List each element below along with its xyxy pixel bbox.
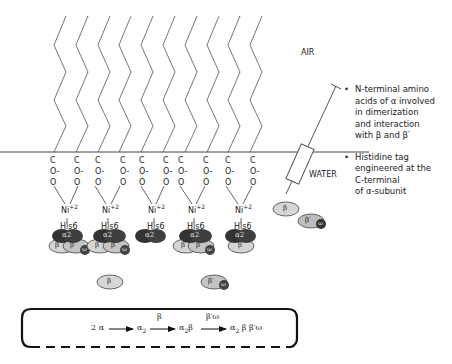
omega-label-4: ω <box>207 245 212 252</box>
headgroup-3: C O- O <box>95 155 104 188</box>
beta-prime-label-1: β′ <box>70 241 76 249</box>
headgroup-8: C O- O <box>203 155 212 188</box>
carbon-label: C <box>139 155 148 166</box>
o-minus-label: O- <box>203 166 212 177</box>
carbon-label: C <box>178 155 187 166</box>
beta-prime-label-2: β′ <box>111 241 117 249</box>
lipid-chain-4 <box>119 16 131 152</box>
lipid-chain-6 <box>163 16 175 152</box>
note-line: and interaction <box>355 119 452 131</box>
oxygen-label: O <box>250 177 259 188</box>
free-beta-prime-label-2: β′ <box>305 216 311 224</box>
note-line: acids of α involved <box>355 96 452 108</box>
bullet: • <box>344 84 349 96</box>
lipid-chain-5 <box>141 16 153 152</box>
oxygen-label: O <box>120 177 129 188</box>
o-minus-label: O- <box>139 166 148 177</box>
ni-label-2: Ni+2 <box>102 203 119 215</box>
oxygen-label: O <box>95 177 104 188</box>
carbon-label: C <box>95 155 104 166</box>
oxygen-label: O <box>163 177 172 188</box>
his6-label-4: His6 <box>187 222 205 231</box>
o-minus-label: O- <box>95 166 104 177</box>
free-beta-prime-label-1: β′ <box>208 277 214 285</box>
omega-label-2: ω <box>122 245 127 252</box>
water-label: WATER <box>309 170 337 179</box>
his6-label-1: His6 <box>60 222 78 231</box>
oxygen-label: O <box>74 177 83 188</box>
step-beta-prime-omega-label: β′ω <box>206 312 219 321</box>
air-label: AIR <box>301 48 314 57</box>
o-minus-label: O- <box>74 166 83 177</box>
beta-label-5: β <box>238 241 242 249</box>
headgroup-4: C O- O <box>120 155 129 188</box>
lipid-chain-1 <box>54 16 66 152</box>
carbon-label: C <box>74 155 83 166</box>
carbon-label: C <box>203 155 212 166</box>
oxygen-label: O <box>139 177 148 188</box>
o-minus-label: O- <box>163 166 172 177</box>
lipid-chain-7 <box>185 16 197 152</box>
headgroup-2: C O- O <box>74 155 83 188</box>
headgroup-10: C O- O <box>250 155 259 188</box>
step-beta-label: β <box>157 312 162 321</box>
his6-label-5: His6 <box>234 222 252 231</box>
lipid-chain-9 <box>228 16 240 152</box>
carbon-label: C <box>225 155 234 166</box>
headgroup-7: C O- O <box>178 155 187 188</box>
reactant-2-alpha: 2 α <box>91 323 104 332</box>
beta-label-1: β <box>55 241 59 249</box>
his6-label-2: His6 <box>101 222 119 231</box>
lipid-chains <box>54 16 262 152</box>
lipid-chain-8 <box>207 16 219 152</box>
beta-label-2: β <box>95 241 99 249</box>
carbon-label: C <box>120 155 129 166</box>
o-minus-label: O- <box>120 166 129 177</box>
lipid-chain-10 <box>250 16 262 152</box>
oxygen-label: O <box>50 177 59 188</box>
his6-label-3: His6 <box>147 222 165 231</box>
lipid-chain-2 <box>76 16 88 152</box>
beta-label-4: β <box>181 241 185 249</box>
headgroup-6: C O- O <box>163 155 172 188</box>
o-minus-label: O- <box>225 166 234 177</box>
note-line: Histidine tag <box>355 152 452 164</box>
ni-label-5: Ni+2 <box>235 203 252 215</box>
note-line: with β and β′ <box>355 130 452 142</box>
o-minus-label: O- <box>50 166 59 177</box>
ni-label-3: Ni+2 <box>148 203 165 215</box>
o-minus-label: O- <box>178 166 187 177</box>
alpha2-label-1: α2 <box>62 231 71 239</box>
free-omega-label-1: ω <box>221 280 226 287</box>
o-minus-label: O- <box>250 166 259 177</box>
headgroup-5: C O- O <box>139 155 148 188</box>
beta-prime-label-4: β′ <box>196 241 202 249</box>
free-omega-label-2: ω <box>318 219 323 226</box>
alpha2-label-5: α2 <box>235 231 244 239</box>
headgroup-1: C O- O <box>50 155 59 188</box>
note-histidine-tag: • Histidine tag engineered at the C-term… <box>344 152 452 198</box>
ni-label-4: Ni+2 <box>188 203 205 215</box>
note-n-terminal: • N-terminal amino acids of α involved i… <box>344 84 452 142</box>
final-product: α2 β β′ω <box>230 323 262 334</box>
carbon-label: C <box>250 155 259 166</box>
carbon-label: C <box>163 155 172 166</box>
oxygen-label: O <box>178 177 187 188</box>
note-line: C-terminal <box>355 175 452 187</box>
notes-panel: • N-terminal amino acids of α involved i… <box>344 84 452 205</box>
free-beta-label-2: β <box>283 204 287 212</box>
note-line: N-terminal amino <box>355 84 452 96</box>
product-alpha2: α2 <box>137 323 146 334</box>
bullet: • <box>344 152 349 164</box>
alpha2-label-2: α2 <box>103 231 112 239</box>
carbon-label: C <box>50 155 59 166</box>
ni-label-1: Ni+2 <box>61 203 78 215</box>
headgroup-9: C O- O <box>225 155 234 188</box>
note-line: engineered at the <box>355 163 452 175</box>
alpha2-label-3: α2 <box>145 231 154 239</box>
product-alpha2-beta: α2β <box>179 323 193 334</box>
oxygen-label: O <box>225 177 234 188</box>
omega-label-1: ω <box>82 245 87 252</box>
note-line: of α-subunit <box>355 186 452 198</box>
oxygen-label: O <box>203 177 212 188</box>
